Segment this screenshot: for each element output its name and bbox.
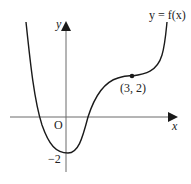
point-label: (3, 2) — [120, 81, 146, 95]
graph-canvas: y = f(x) y x O −2 (3, 2) — [0, 0, 191, 184]
inflection-point-marker — [130, 74, 135, 79]
y-axis-arrow-icon — [61, 21, 71, 31]
origin-label: O — [54, 118, 63, 132]
y-intercept-label: −2 — [48, 152, 61, 166]
x-axis-label: x — [171, 119, 178, 133]
curve-label: y = f(x) — [149, 8, 186, 22]
y-axis-label: y — [55, 17, 62, 31]
